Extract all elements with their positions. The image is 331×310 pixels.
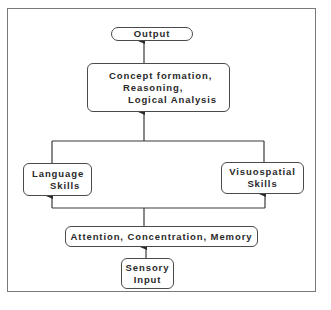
language-line-1: Language — [32, 168, 84, 180]
node-sensory-input: Sensory Input — [121, 258, 174, 289]
visuospatial-line-2: Skills — [247, 178, 277, 190]
visuospatial-line-1: Visuospatial — [229, 166, 296, 178]
concept-line-3: Logical Analysis — [109, 94, 217, 106]
node-language-skills: Language Skills — [23, 163, 92, 196]
sensory-line-1: Sensory — [126, 262, 170, 274]
node-output: Output — [111, 27, 193, 41]
language-line-2: Skills — [32, 180, 80, 192]
output-label: Output — [134, 28, 171, 40]
node-visuospatial-skills: Visuospatial Skills — [221, 162, 304, 194]
attention-label: Attention, Concentration, Memory — [71, 231, 253, 243]
sensory-line-2: Input — [134, 274, 162, 286]
node-concept-formation: Concept formation, Reasoning, Logical An… — [87, 63, 230, 112]
concept-line-1: Concept formation, — [109, 70, 212, 82]
concept-line-2: Reasoning, — [109, 82, 183, 94]
node-attention-concentration-memory: Attention, Concentration, Memory — [65, 226, 258, 247]
